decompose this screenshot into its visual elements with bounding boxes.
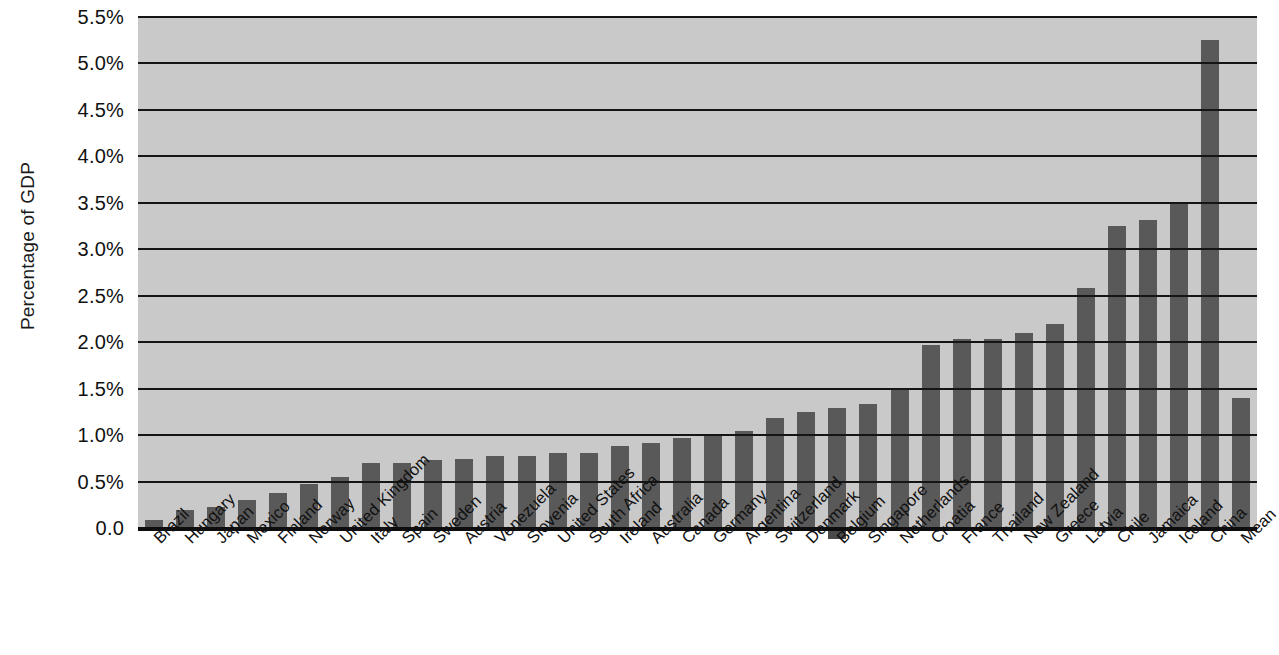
plot-area [138, 17, 1257, 528]
y-tick-label: 4.0% [78, 145, 124, 168]
y-tick-label: 2.0% [78, 331, 124, 354]
bar [1201, 40, 1219, 528]
y-tick-label: 0.5% [78, 470, 124, 493]
y-tick-label: 5.0% [78, 52, 124, 75]
gridline [138, 62, 1257, 64]
y-tick-label: 1.5% [78, 377, 124, 400]
bars-layer [138, 17, 1257, 528]
y-tick-label: 0.0 [96, 517, 124, 540]
y-tick-label: 4.5% [78, 98, 124, 121]
y-axis-title: Percentage of GDP [17, 96, 39, 396]
y-tick-label: 2.5% [78, 284, 124, 307]
gridline [138, 434, 1257, 436]
bar [1108, 226, 1126, 528]
gridline [138, 202, 1257, 204]
gridline [138, 16, 1257, 18]
gridline [138, 109, 1257, 111]
gridline [138, 295, 1257, 297]
y-tick-label: 3.5% [78, 191, 124, 214]
gridline [138, 388, 1257, 390]
y-tick-label: 1.0% [78, 424, 124, 447]
gridline [138, 248, 1257, 250]
y-axis-tick-labels: 0.00.5%1.0%1.5%2.0%2.5%3.0%3.5%4.0%4.5%5… [40, 0, 132, 655]
y-tick-label: 5.5% [78, 6, 124, 29]
y-tick-label: 3.0% [78, 238, 124, 261]
x-axis-tick-labels: BrazilHungaryJapanMexicoFinlandNorwayUni… [138, 528, 1257, 655]
bar [1170, 202, 1188, 528]
bar-chart: Percentage of GDP 0.00.5%1.0%1.5%2.0%2.5… [0, 0, 1279, 655]
gridline [138, 341, 1257, 343]
gridline [138, 155, 1257, 157]
